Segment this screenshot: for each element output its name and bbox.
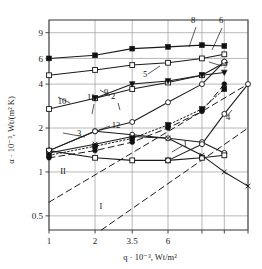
marker-8 <box>93 53 98 58</box>
marker-6 <box>130 63 135 68</box>
x-axis-label: q · 10⁻³, Wt/m² <box>123 252 177 262</box>
marker-4 <box>130 140 135 145</box>
marker-6 <box>222 52 227 57</box>
marker-8 <box>47 56 52 61</box>
marker-4 <box>93 148 98 153</box>
annotation-8: 8 <box>191 15 195 25</box>
x-tick-label: 6 <box>166 236 171 246</box>
annotation-1: 1 <box>183 139 187 149</box>
marker-4 <box>166 126 171 131</box>
annotation-6: 6 <box>219 15 223 25</box>
marker-9 <box>47 107 52 112</box>
annotation-3: 3 <box>77 128 81 138</box>
marker-4 <box>222 82 227 87</box>
marker-7 <box>199 82 204 87</box>
marker-8 <box>222 44 227 49</box>
marker-8 <box>166 44 171 49</box>
annotation-I: I <box>100 201 103 211</box>
marker-6 <box>166 60 171 65</box>
y-tick-label: 1 <box>39 167 44 177</box>
marker-1 <box>246 82 251 87</box>
marker-7 <box>166 100 171 105</box>
y-tick-label: 6 <box>39 54 44 64</box>
x-tick-label: 1 <box>47 236 52 246</box>
marker-4 <box>200 109 205 114</box>
annotation-II: II <box>60 166 66 176</box>
annotation-9: 9 <box>104 87 108 97</box>
chart-figure: 123.56964210.5 123456789101112III q · 10… <box>0 0 262 269</box>
marker-8 <box>200 43 205 48</box>
marker-3 <box>222 153 227 158</box>
y-tick-label: 9 <box>39 28 44 38</box>
x-tick-label: 3.5 <box>127 236 139 246</box>
marker-7 <box>130 119 135 124</box>
annotation-7: 7 <box>224 60 228 70</box>
marker-3 <box>200 155 205 160</box>
marker-3 <box>130 158 135 163</box>
marker-11 <box>93 129 98 134</box>
annotation-5: 5 <box>143 69 147 79</box>
marker-4 <box>47 155 52 160</box>
marker-6 <box>93 68 98 73</box>
marker-12 <box>222 87 227 92</box>
marker-3 <box>93 155 98 160</box>
annotation-12: 12 <box>112 120 121 130</box>
y-axis-label: α · 10⁻³, Wt/(m² K) <box>6 96 16 164</box>
marker-1 <box>166 158 171 163</box>
marker-6 <box>200 56 205 61</box>
annotation-10: 10 <box>58 96 67 106</box>
y-tick-label: 0.5 <box>32 211 44 221</box>
annotation-11: 11 <box>87 92 95 102</box>
marker-8 <box>130 46 135 51</box>
x-tick-label: 2 <box>93 236 98 246</box>
y-tick-label: 4 <box>39 79 44 89</box>
chart-canvas: 123.56964210.5 123456789101112III q · 10… <box>0 0 262 269</box>
marker-1 <box>199 142 204 147</box>
annotation-2: 2 <box>111 91 115 101</box>
y-tick-label: 2 <box>39 123 44 133</box>
marker-6 <box>47 73 52 78</box>
